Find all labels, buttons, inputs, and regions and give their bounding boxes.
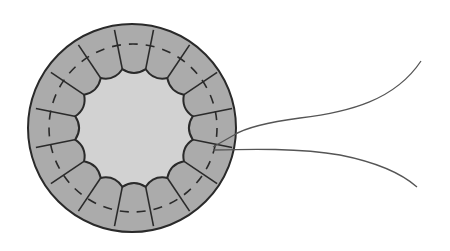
thread-lower	[213, 149, 417, 187]
suture-thread	[213, 61, 421, 187]
thread-upper	[213, 61, 421, 147]
tube-cross-section-diagram	[0, 0, 450, 251]
